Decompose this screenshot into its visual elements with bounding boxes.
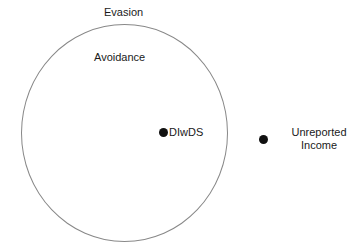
point-marker-icon <box>159 128 168 137</box>
point-label-line-1: Unreported <box>291 126 346 138</box>
point-marker-icon <box>259 135 268 144</box>
point-label-line-2: Income <box>301 139 337 151</box>
point-label-unreported-income: Unreported Income <box>286 126 351 152</box>
point-node-unreported-income: Unreported Income <box>259 126 351 152</box>
region-label-avoidance: Avoidance <box>94 51 145 64</box>
point-label-dlwds: DIwDS <box>169 126 203 139</box>
region-label-evasion: Evasion <box>104 6 143 19</box>
point-node-dlwds: DIwDS <box>159 126 203 139</box>
